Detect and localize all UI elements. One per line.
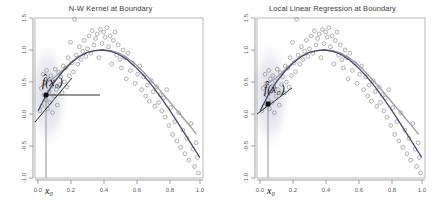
scatter-point	[193, 165, 197, 169]
x-tick-label: 1.0	[418, 187, 427, 193]
x-tick-label: 0.0	[256, 187, 265, 193]
y-tick-label: 0.5	[243, 77, 249, 86]
y-tick-label: -1.0	[21, 172, 27, 183]
scatter-point	[113, 30, 117, 34]
scatter-point	[303, 49, 307, 53]
scatter-point	[333, 39, 337, 43]
scatter-point	[324, 30, 328, 34]
scatter-point	[76, 62, 80, 66]
scatter-point	[163, 115, 167, 119]
panel-nw-kernel: N-W Kernel at Boundary	[0, 0, 221, 205]
scatter-point	[97, 56, 101, 60]
scatter-point	[343, 48, 347, 52]
fitted-point-marker	[43, 92, 48, 97]
scatter-point	[300, 45, 304, 49]
y-tick-label: 0.0	[243, 109, 249, 118]
scatter-point	[157, 101, 161, 105]
scatter-point	[151, 90, 155, 94]
scatter-point	[110, 62, 114, 66]
scatter-point	[183, 152, 187, 156]
y-tick-label: 0.5	[21, 77, 27, 86]
scatter-point	[86, 47, 90, 51]
scatter-point	[92, 43, 96, 47]
scatter-point	[82, 39, 86, 43]
scatter-point	[314, 43, 318, 47]
scatter-point	[322, 42, 326, 46]
scatter-point	[367, 83, 371, 87]
y-tick-label: 0.0	[21, 109, 27, 118]
scatter-point	[128, 69, 132, 73]
fhat-label: f̂(x₀)	[42, 74, 63, 89]
scatter-point	[140, 88, 144, 92]
scatter-point	[405, 152, 409, 156]
scatter-point	[102, 30, 106, 34]
scatter-point	[379, 101, 383, 105]
scatter-point	[346, 77, 350, 81]
scatter-point	[90, 29, 94, 33]
scatter-point	[358, 72, 362, 76]
scatter-point	[301, 58, 305, 62]
scatter-point	[319, 56, 323, 60]
scatter-point	[165, 88, 169, 92]
scatter-point	[108, 34, 112, 38]
scatter-point	[366, 94, 370, 98]
scatter-point	[99, 28, 103, 32]
scatter-point	[312, 29, 316, 33]
scatter-point	[325, 35, 329, 39]
scatter-point	[79, 58, 83, 62]
scatter-point	[335, 30, 339, 34]
scatter-point	[111, 39, 115, 43]
scatter-point	[69, 40, 73, 44]
scatter-point	[309, 34, 313, 38]
scatter-point	[416, 141, 420, 145]
scatter-point	[415, 165, 419, 169]
scatter-point	[194, 141, 198, 145]
scatter-point	[329, 45, 333, 49]
y-tick-label: -1.0	[243, 172, 249, 183]
x-tick-label: 0.4	[322, 187, 331, 193]
scatter-point	[304, 39, 308, 43]
plot-local-linear: 1.5 1.0 0.5 0.0 -0.5 -1.0 0.0 0.2 0.4 0.…	[222, 0, 443, 205]
scatter-point	[95, 32, 99, 36]
x-axis: 0.0 0.2 0.4 0.6 0.8 1.0	[34, 180, 205, 193]
scatter-point	[338, 43, 342, 47]
scatter-point	[389, 124, 393, 128]
scatter-point	[330, 34, 334, 38]
scatter-point	[103, 35, 107, 39]
x-tick-label: 1.0	[196, 187, 205, 193]
scatter-point	[107, 45, 111, 49]
scatter-point	[375, 104, 379, 108]
y-tick-label: 1.5	[243, 13, 249, 22]
scatter-point	[355, 81, 359, 85]
scatter-point	[118, 58, 122, 62]
x-axis: 0.0 0.2 0.4 0.6 0.8 1.0	[256, 180, 427, 193]
y-tick-label: 1.0	[21, 45, 27, 54]
scatter-point	[350, 69, 354, 73]
scatter-point	[175, 139, 179, 143]
scatter-point	[342, 66, 346, 70]
scatter-point	[327, 26, 331, 30]
x-tick-label: 0.8	[388, 187, 397, 193]
scatter-point	[87, 34, 91, 38]
scatter-point	[385, 115, 389, 119]
scatter-point	[321, 28, 325, 32]
x-tick-label: 0.0	[34, 187, 43, 193]
scatter-point	[94, 37, 98, 41]
scatter-point	[78, 45, 82, 49]
scatter-point	[81, 49, 85, 53]
scatter-point	[362, 88, 366, 92]
scatter-point	[120, 66, 124, 70]
scatter-point	[84, 55, 88, 59]
scatter-point	[126, 51, 130, 55]
scatter-point	[298, 62, 302, 66]
scatter-point	[133, 81, 137, 85]
scatter-point	[187, 158, 191, 162]
scatter-point	[153, 104, 157, 108]
scatter-point	[369, 99, 373, 103]
scatter-point	[317, 32, 321, 36]
scatter-point	[294, 70, 298, 74]
scatter-point	[332, 62, 336, 66]
panel-local-linear: Local Linear Regression at Boundary	[222, 0, 443, 205]
scatter-point	[121, 48, 125, 52]
y-tick-label: -0.5	[21, 140, 27, 151]
